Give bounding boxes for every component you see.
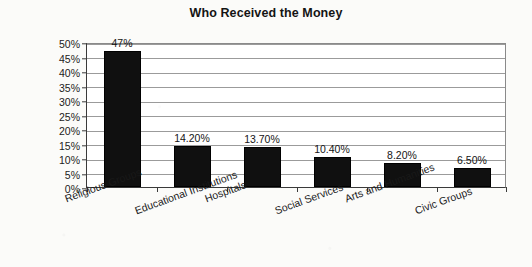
bar-value-label: 6.50%: [457, 154, 487, 166]
bar[interactable]: [454, 168, 491, 187]
y-tick-label: 10%: [59, 154, 80, 166]
x-tick-mark: [157, 187, 158, 192]
gridline: [87, 58, 505, 59]
y-tick-mark: [82, 87, 87, 88]
gridline: [87, 131, 505, 132]
y-tick-label: 15%: [59, 140, 80, 152]
gridline: [87, 87, 505, 88]
y-tick-label: 35%: [59, 82, 80, 94]
y-tick-label: 20%: [59, 125, 80, 137]
gridline: [87, 174, 505, 175]
y-tick-label: 25%: [59, 111, 80, 123]
y-tick-label: 45%: [59, 53, 80, 65]
y-tick-mark: [82, 174, 87, 175]
y-tick-mark: [82, 72, 87, 73]
y-tick-mark: [82, 116, 87, 117]
x-category-label: Civic Groups: [413, 184, 474, 216]
y-tick-label: 50%: [59, 38, 80, 50]
bar-value-label: 10.40%: [314, 143, 350, 155]
y-tick-mark: [82, 145, 87, 146]
y-tick-label: 30%: [59, 96, 80, 108]
y-tick-mark: [82, 43, 87, 44]
y-tick-label: 40%: [59, 67, 80, 79]
y-tick-mark: [82, 101, 87, 102]
gridline: [87, 102, 505, 103]
chart-title: Who Received the Money: [0, 6, 532, 20]
bar[interactable]: [244, 147, 281, 187]
bar-value-label: 14.20%: [174, 132, 210, 144]
bar-value-label: 8.20%: [387, 149, 417, 161]
bar-value-label: 47%: [111, 37, 132, 49]
gridline: [87, 116, 505, 117]
gridline: [87, 44, 505, 45]
plot-area: 0%5%10%15%20%25%30%35%40%45%50% 47%14.20…: [86, 43, 506, 188]
y-tick-label: 5%: [65, 169, 80, 181]
bar-value-label: 13.70%: [244, 133, 280, 145]
y-tick-mark: [82, 58, 87, 59]
gridline: [87, 145, 505, 146]
x-tick-mark: [297, 187, 298, 192]
y-tick-mark: [82, 130, 87, 131]
y-tick-mark: [82, 159, 87, 160]
x-tick-mark: [506, 187, 507, 192]
x-tick-mark: [437, 187, 438, 192]
gridline: [87, 160, 505, 161]
gridline: [87, 73, 505, 74]
